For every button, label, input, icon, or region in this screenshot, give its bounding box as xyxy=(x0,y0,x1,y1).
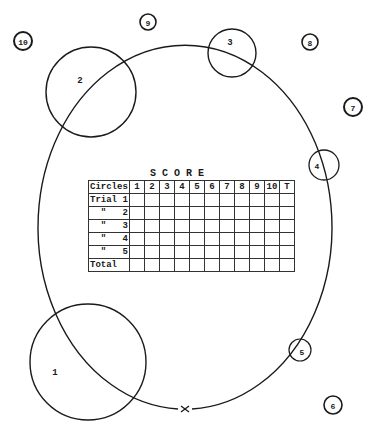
column-header: 9 xyxy=(250,181,265,194)
table-row: Total xyxy=(89,259,295,272)
score-cell[interactable] xyxy=(175,194,190,207)
column-header: 2 xyxy=(145,181,160,194)
table-row: " 5 xyxy=(89,246,295,259)
score-cell[interactable] xyxy=(280,259,295,272)
score-cell[interactable] xyxy=(220,246,235,259)
score-cell[interactable] xyxy=(130,207,145,220)
score-cell[interactable] xyxy=(160,194,175,207)
score-cell[interactable] xyxy=(190,233,205,246)
score-cell[interactable] xyxy=(265,246,280,259)
start-x-marker xyxy=(181,406,189,412)
score-cell[interactable] xyxy=(160,259,175,272)
score-cell[interactable] xyxy=(190,246,205,259)
score-cell[interactable] xyxy=(190,220,205,233)
score-cell[interactable] xyxy=(280,207,295,220)
score-cell[interactable] xyxy=(160,246,175,259)
circle-4: 4 xyxy=(309,150,339,180)
score-cell[interactable] xyxy=(250,207,265,220)
score-cell[interactable] xyxy=(280,233,295,246)
score-cell[interactable] xyxy=(265,194,280,207)
score-cell[interactable] xyxy=(235,246,250,259)
score-cell[interactable] xyxy=(280,194,295,207)
table-header-row: Circles12345678910T xyxy=(89,181,295,194)
score-cell[interactable] xyxy=(160,233,175,246)
score-cell[interactable] xyxy=(235,220,250,233)
table-row: " 4 xyxy=(89,233,295,246)
circle-9: 9 xyxy=(140,14,156,30)
score-cell[interactable] xyxy=(130,233,145,246)
score-cell[interactable] xyxy=(145,220,160,233)
score-cell[interactable] xyxy=(190,207,205,220)
circle-label: 9 xyxy=(146,19,151,28)
score-cell[interactable] xyxy=(250,194,265,207)
score-cell[interactable] xyxy=(280,246,295,259)
score-cell[interactable] xyxy=(235,233,250,246)
score-cell[interactable] xyxy=(220,207,235,220)
score-cell[interactable] xyxy=(175,246,190,259)
score-title: SCORE xyxy=(150,168,210,179)
score-cell[interactable] xyxy=(160,207,175,220)
score-cell[interactable] xyxy=(130,220,145,233)
circle-label: 7 xyxy=(351,104,356,113)
score-cell[interactable] xyxy=(220,233,235,246)
circle-label: 6 xyxy=(331,402,336,411)
score-cell[interactable] xyxy=(145,233,160,246)
circle-label: 3 xyxy=(227,38,232,48)
row-label: " 2 xyxy=(89,207,130,220)
score-cell[interactable] xyxy=(145,246,160,259)
score-cell[interactable] xyxy=(160,220,175,233)
circle-8: 8 xyxy=(302,34,318,50)
score-cell[interactable] xyxy=(175,207,190,220)
score-cell[interactable] xyxy=(265,207,280,220)
row-label: " 3 xyxy=(89,220,130,233)
corner-label: Circles xyxy=(89,181,130,194)
table-row: Trial 1 xyxy=(89,194,295,207)
score-cell[interactable] xyxy=(280,220,295,233)
score-cell[interactable] xyxy=(130,259,145,272)
score-cell[interactable] xyxy=(175,233,190,246)
circle-outline xyxy=(309,150,339,180)
circle-1: 1 xyxy=(30,304,146,420)
score-cell[interactable] xyxy=(205,246,220,259)
column-header: 4 xyxy=(175,181,190,194)
column-header: 1 xyxy=(130,181,145,194)
score-cell[interactable] xyxy=(130,246,145,259)
score-cell[interactable] xyxy=(205,233,220,246)
circle-5: 5 xyxy=(289,339,311,361)
score-cell[interactable] xyxy=(145,207,160,220)
score-cell[interactable] xyxy=(190,194,205,207)
score-cell[interactable] xyxy=(220,194,235,207)
column-header: 10 xyxy=(265,181,280,194)
score-cell[interactable] xyxy=(145,259,160,272)
score-cell[interactable] xyxy=(250,233,265,246)
score-cell[interactable] xyxy=(205,259,220,272)
circle-label: 1 xyxy=(52,368,58,378)
score-cell[interactable] xyxy=(175,220,190,233)
score-cell[interactable] xyxy=(265,233,280,246)
circle-label: 4 xyxy=(315,162,320,171)
column-header: 6 xyxy=(205,181,220,194)
circle-2: 2 xyxy=(46,47,136,137)
score-cell[interactable] xyxy=(250,246,265,259)
score-cell[interactable] xyxy=(265,259,280,272)
score-cell[interactable] xyxy=(205,220,220,233)
score-cell[interactable] xyxy=(250,220,265,233)
score-cell[interactable] xyxy=(205,194,220,207)
score-cell[interactable] xyxy=(190,259,205,272)
score-cell[interactable] xyxy=(265,220,280,233)
score-cell[interactable] xyxy=(235,194,250,207)
score-cell[interactable] xyxy=(220,220,235,233)
score-cell[interactable] xyxy=(145,194,160,207)
score-cell[interactable] xyxy=(250,259,265,272)
row-label: Trial 1 xyxy=(89,194,130,207)
column-header: 5 xyxy=(190,181,205,194)
score-cell[interactable] xyxy=(130,194,145,207)
score-cell[interactable] xyxy=(220,259,235,272)
score-cell[interactable] xyxy=(235,207,250,220)
score-cell[interactable] xyxy=(205,207,220,220)
row-label: " 4 xyxy=(89,233,130,246)
circle-outline xyxy=(208,29,256,77)
circle-7: 7 xyxy=(344,98,362,116)
score-cell[interactable] xyxy=(175,259,190,272)
score-cell[interactable] xyxy=(235,259,250,272)
